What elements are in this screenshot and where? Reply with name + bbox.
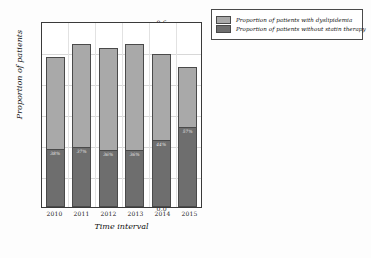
bar-value-label: 36% [100, 153, 117, 157]
x-tick-label: 2010 [41, 210, 68, 217]
legend-item-dyslipidemia: Proportion of patients with dyslipidemia [216, 16, 358, 24]
bar-segment-with-dyslipidemia [99, 48, 118, 150]
legend-swatch-icon [216, 25, 231, 33]
x-tick-label: 2015 [176, 210, 203, 217]
gridline-vertical [122, 23, 123, 207]
gridline-vertical [68, 23, 69, 207]
bar-segment-with-dyslipidemia [178, 67, 197, 127]
legend-label: Proportion of patients without statin th… [236, 26, 366, 32]
bar-value-label: 36% [126, 153, 143, 157]
bar-2010[interactable]: 38% [46, 57, 65, 207]
x-tick-label: 2013 [122, 210, 149, 217]
gridline-vertical [95, 23, 96, 207]
bar-segment-with-dyslipidemia [125, 44, 144, 149]
legend-item-no-statin: Proportion of patients without statin th… [216, 25, 358, 33]
plot-area: 38%37%36%36%44%57% [41, 22, 202, 208]
bar-segment-without-statin-therapy: 38% [46, 149, 65, 207]
bar-2015[interactable]: 57% [178, 67, 197, 207]
bar-value-label: 44% [153, 143, 170, 147]
legend-swatch-icon [216, 16, 231, 24]
bar-segment-with-dyslipidemia [152, 54, 171, 140]
bar-segment-without-statin-therapy: 37% [72, 147, 91, 207]
chart-canvas: Proportion of patients 0.0 0.1 0.2 0.3 0… [0, 0, 371, 258]
bar-value-label: 38% [47, 152, 64, 156]
x-tick-label: 2011 [68, 210, 95, 217]
gridline-vertical [176, 23, 177, 207]
gridline-vertical [149, 23, 150, 207]
y-axis-title: Proportion of patients [15, 0, 24, 150]
x-axis-title: Time interval [41, 222, 202, 231]
x-tick-label: 2012 [95, 210, 122, 217]
bar-value-label: 37% [73, 150, 90, 154]
bar-2014[interactable]: 44% [152, 54, 171, 207]
bar-segment-without-statin-therapy: 44% [152, 140, 171, 207]
bar-2013[interactable]: 36% [125, 44, 144, 207]
bar-segment-without-statin-therapy: 57% [178, 127, 197, 207]
bar-segment-with-dyslipidemia [72, 44, 91, 146]
legend-label: Proportion of patients with dyslipidemia [236, 17, 352, 23]
bar-segment-with-dyslipidemia [46, 57, 65, 149]
x-tick-label: 2014 [149, 210, 176, 217]
bar-2011[interactable]: 37% [72, 44, 91, 207]
bar-segment-without-statin-therapy: 36% [99, 150, 118, 207]
chart-legend: Proportion of patients with dyslipidemia… [211, 9, 363, 40]
bar-segment-without-statin-therapy: 36% [125, 150, 144, 207]
bar-value-label: 57% [179, 130, 196, 134]
bar-2012[interactable]: 36% [99, 48, 118, 207]
